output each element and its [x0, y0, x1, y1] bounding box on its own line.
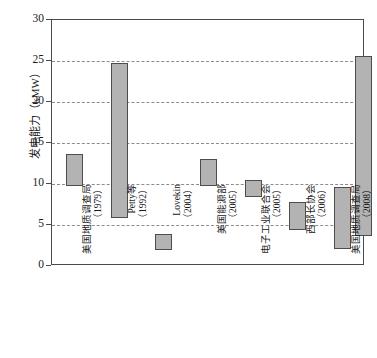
x-tick-label-year: （1992）: [138, 184, 149, 268]
x-axis-labels: 美国地质调查局（1979）Petty等（1992）Lovekin（2004）美国…: [0, 0, 377, 358]
x-tick-label-year: （2008）: [361, 184, 372, 268]
x-tick-label-name: 西部长协会: [306, 184, 317, 268]
x-tick-label: 电子工业联合会（2005）: [261, 184, 282, 268]
x-tick-label-year: （2006）: [316, 184, 327, 268]
x-tick-label: 西部长协会（2006）: [306, 184, 327, 268]
x-tick-label: 美国地质调查局（1979）: [82, 184, 103, 268]
x-tick-label-year: （2005）: [272, 184, 283, 268]
x-tick-label-year: （1979）: [93, 184, 104, 268]
x-tick-label-year: （2005）: [227, 184, 238, 268]
x-tick-label: Lovekin（2004）: [172, 184, 193, 268]
x-tick-label-name: 美国能源部: [217, 184, 228, 268]
x-tick-label-name: 美国地质调查局: [82, 184, 93, 268]
x-tick-label: 美国地质调查局（2008）: [351, 184, 372, 268]
chart-container: 发电能力（kMW） 051015202530 美国地质调查局（1979）Pett…: [0, 0, 377, 358]
x-tick-label-year: （2004）: [182, 184, 193, 268]
x-tick-label: 美国能源部（2005）: [217, 184, 238, 268]
x-tick-label-name: Lovekin: [172, 184, 183, 268]
x-tick-label-name: 美国地质调查局: [351, 184, 362, 268]
x-tick-label-name: Petty等: [127, 184, 138, 268]
x-tick-label: Petty等（1992）: [127, 184, 148, 268]
x-tick-label-name: 电子工业联合会: [261, 184, 272, 268]
